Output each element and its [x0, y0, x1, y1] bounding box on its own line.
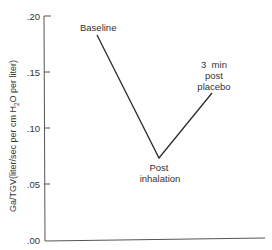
annotation-post-inhalation: Post	[149, 162, 168, 173]
annotation-post-inhalation: inhalation	[140, 173, 181, 184]
annotation-3min-post-placebo: post	[205, 70, 223, 81]
y-axis-label: Ga/TGV(liter/sec per cm H2O per liter)	[8, 60, 20, 212]
ytick-label: .15	[27, 67, 40, 78]
ytick-label: .00	[27, 235, 40, 246]
annotation-3min-post-placebo: 3 min	[201, 59, 227, 70]
ytick-label: .20	[27, 11, 40, 22]
x-axis	[45, 238, 265, 241]
line-chart: .20 .15 .10 .05 .00 Ga/TGV(liter/sec per…	[0, 0, 272, 250]
data-line	[97, 35, 212, 158]
ytick-label: .05	[27, 179, 40, 190]
annotation-3min-post-placebo: placebo	[197, 81, 230, 92]
annotation-baseline: Baseline	[80, 22, 116, 33]
ytick-label: .10	[27, 123, 40, 134]
